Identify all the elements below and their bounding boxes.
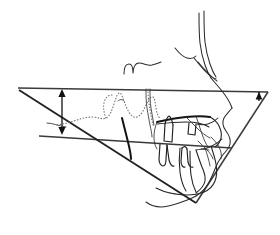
figure-background	[0, 0, 280, 235]
cephalometric-tracing-canvas	[0, 0, 280, 235]
cephalometric-tracing-figure	[0, 0, 280, 235]
